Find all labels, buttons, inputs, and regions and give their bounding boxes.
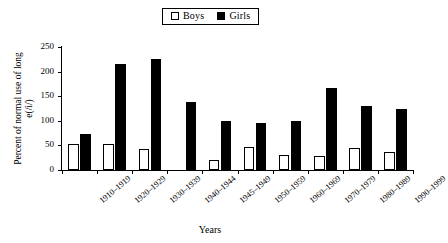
bar-group: [349, 47, 372, 170]
bar-boys: [209, 160, 220, 170]
bar-boys: [279, 155, 290, 170]
bar-group: [174, 47, 197, 170]
legend-entry-boys: Boys: [171, 11, 204, 21]
y-tick-label: 50: [45, 139, 54, 149]
bar-group: [68, 47, 91, 170]
y-tick-label: 100: [41, 115, 55, 125]
bar-group: [244, 47, 267, 170]
bar-girls: [151, 59, 162, 170]
x-tick-mark: [97, 170, 98, 174]
y-tick-mark: [58, 121, 62, 122]
x-category-label: 1990–1999: [413, 174, 448, 205]
x-tick-mark: [343, 170, 344, 174]
bar-girls: [291, 121, 302, 170]
y-tick-label: 250: [41, 41, 55, 51]
bar-boys: [68, 144, 79, 170]
y-tick-mark: [58, 145, 62, 146]
x-category-label: 1940–1944: [203, 174, 238, 205]
bar-group: [314, 47, 337, 170]
bar-boys: [139, 149, 150, 170]
x-tick-mark: [413, 170, 414, 174]
bar-girls: [115, 64, 126, 170]
x-axis-title: Years: [0, 224, 420, 235]
bar-girls: [256, 123, 267, 170]
bar-boys: [103, 144, 114, 170]
bar-girls: [80, 134, 91, 170]
bar-boys: [244, 147, 255, 170]
bar-boys: [384, 152, 395, 170]
bar-group: [139, 47, 162, 170]
bar-girls: [326, 88, 337, 170]
y-tick-mark: [58, 47, 62, 48]
x-tick-mark: [378, 170, 379, 174]
y-tick-label: 150: [41, 90, 55, 100]
legend-label-girls: Girls: [229, 11, 250, 21]
y-axis-title: Percent of normal use of long e(/i/): [11, 47, 37, 170]
bar-girls: [186, 102, 197, 170]
x-tick-mark: [167, 170, 168, 174]
bar-group: [384, 47, 407, 170]
bar-group: [103, 47, 126, 170]
chart-legend: Boys Girls: [162, 8, 259, 25]
bar-boys: [349, 148, 360, 170]
x-tick-mark: [308, 170, 309, 174]
y-tick-mark: [58, 72, 62, 73]
x-category-label: 1910–1919: [97, 174, 132, 205]
bar-girls: [361, 106, 372, 170]
solid-square-swatch: [217, 12, 225, 20]
x-category-label: 1930–1939: [168, 174, 203, 205]
x-category-label: 1945–1949: [238, 174, 273, 205]
x-category-label: 1950–1959: [273, 174, 308, 205]
bar-group: [279, 47, 302, 170]
y-tick-label: 0: [50, 164, 55, 174]
x-category-label: 1920–1929: [132, 174, 167, 205]
x-category-label: 1970–1979: [343, 174, 378, 205]
x-category-label: 1960–1969: [308, 174, 343, 205]
plot-area: 050100150200250: [62, 47, 413, 170]
x-tick-mark: [132, 170, 133, 174]
x-tick-mark: [62, 170, 63, 174]
legend-label-boys: Boys: [183, 11, 204, 21]
bar-girls: [221, 121, 232, 170]
y-tick-label: 200: [41, 66, 55, 76]
x-tick-mark: [202, 170, 203, 174]
y-tick-mark: [58, 96, 62, 97]
bar-boys: [314, 156, 325, 170]
legend-entry-girls: Girls: [217, 11, 250, 21]
x-category-label: 1980–1989: [378, 174, 413, 205]
bar-group: [209, 47, 232, 170]
bar-girls: [396, 109, 407, 170]
x-tick-mark: [238, 170, 239, 174]
x-tick-mark: [273, 170, 274, 174]
open-square-swatch: [171, 12, 179, 20]
